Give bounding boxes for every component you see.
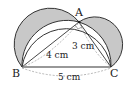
vertex-c-label: C: [110, 67, 118, 80]
length-bc-label: 5 cm: [58, 72, 81, 82]
lune-diagram: A B C 4 cm 3 cm 5 cm: [0, 0, 132, 90]
length-ab-label: 4 cm: [46, 50, 69, 60]
vertex-a-label: A: [74, 6, 84, 19]
vertex-a-point: [78, 21, 81, 24]
vertex-b-label: B: [12, 67, 20, 80]
length-ac-label: 3 cm: [72, 41, 95, 51]
